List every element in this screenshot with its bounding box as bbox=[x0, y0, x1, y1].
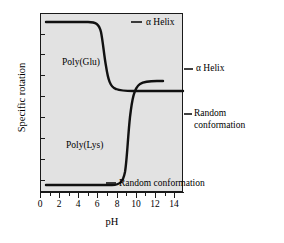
series-label-poly-lys: Poly(Lys) bbox=[66, 140, 103, 150]
x-axis-tick-major bbox=[78, 193, 79, 198]
annotation-random-conformation-mid: Random conformation bbox=[194, 108, 274, 131]
x-axis-tick-major bbox=[136, 193, 137, 198]
annotation-random-conformation-bottom: Random conformation bbox=[119, 178, 205, 190]
x-axis-tick-label: 8 bbox=[107, 199, 127, 210]
x-axis-tick-label: 14 bbox=[164, 199, 184, 210]
y-axis-tick bbox=[40, 180, 45, 181]
chart-figure: 0 2 4 6 8 10 12 14 pH Specific rotation … bbox=[0, 0, 284, 243]
x-axis-tick-label: 6 bbox=[87, 199, 107, 210]
x-axis-tick-minor bbox=[69, 193, 70, 196]
x-axis-tick-major bbox=[174, 193, 175, 198]
x-axis-tick-minor bbox=[50, 193, 51, 196]
x-axis-line bbox=[40, 192, 184, 193]
x-axis-tick-major bbox=[97, 193, 98, 198]
y-axis-tick bbox=[40, 138, 45, 139]
y-axis-tick bbox=[40, 34, 45, 35]
x-axis-tick-minor bbox=[165, 193, 166, 196]
x-axis-tick-minor bbox=[88, 193, 89, 196]
x-axis-tick-minor bbox=[126, 193, 127, 196]
annotation-random-conformation-mid-line1: Random bbox=[194, 108, 226, 118]
annotation-alpha-helix-top: α Helix bbox=[146, 17, 174, 29]
y-axis-tick bbox=[40, 75, 45, 76]
x-axis-tick-label: 4 bbox=[68, 199, 88, 210]
y-axis-tick bbox=[40, 96, 45, 97]
x-axis-tick-minor bbox=[145, 193, 146, 196]
y-axis-tick bbox=[40, 54, 45, 55]
x-axis-tick-label: 10 bbox=[126, 199, 146, 210]
series-label-poly-glu: Poly(Glu) bbox=[62, 57, 100, 67]
x-axis-tick-major bbox=[155, 193, 156, 198]
plot-area bbox=[40, 13, 183, 192]
y-axis-title: Specific rotation bbox=[16, 38, 27, 158]
x-axis-tick-minor bbox=[107, 193, 108, 196]
annotation-random-conformation-mid-line2: conformation bbox=[194, 120, 245, 130]
x-axis-tick-major bbox=[40, 193, 41, 198]
x-axis-title: pH bbox=[40, 216, 184, 227]
x-axis-tick-label: 0 bbox=[30, 199, 50, 210]
x-axis-tick-major bbox=[59, 193, 60, 198]
annotation-alpha-helix-mid: α Helix bbox=[196, 63, 224, 75]
x-axis-tick-label: 2 bbox=[49, 199, 69, 210]
x-axis-tick-major bbox=[117, 193, 118, 198]
y-axis-tick bbox=[40, 159, 45, 160]
y-axis-tick bbox=[40, 117, 45, 118]
x-axis-tick-label: 12 bbox=[145, 199, 165, 210]
